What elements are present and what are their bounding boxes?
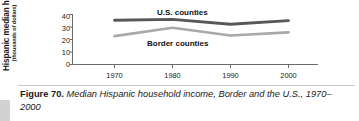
x-tick-label-2000: 2000 bbox=[269, 72, 309, 79]
page-edge-block bbox=[0, 100, 10, 121]
chart-area: Hispanic median household income (thousa… bbox=[0, 0, 359, 84]
figure-caption-text: Median Hispanic household income, Border… bbox=[20, 89, 332, 112]
figure-number: Figure 70. bbox=[20, 89, 67, 99]
caption-divider bbox=[18, 85, 355, 86]
figure-block: Hispanic median household income (thousa… bbox=[0, 0, 359, 121]
x-tick-label-1970: 1970 bbox=[95, 72, 135, 79]
x-tick-label-1990: 1990 bbox=[211, 72, 251, 79]
series-label-us-counties: U.S. counties bbox=[157, 9, 208, 17]
figure-caption: Figure 70. Median Hispanic household inc… bbox=[20, 88, 352, 114]
x-tick-label-1980: 1980 bbox=[153, 72, 193, 79]
series-label-border-counties: Border counties bbox=[147, 40, 208, 48]
